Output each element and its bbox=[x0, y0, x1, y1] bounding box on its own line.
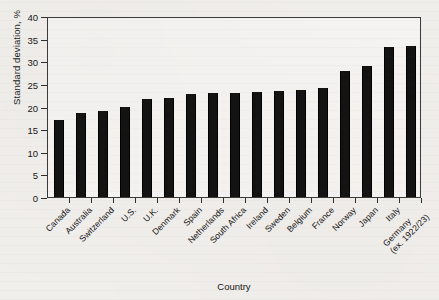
x-axis-category-label: Norway bbox=[330, 205, 358, 233]
y-axis-tick-label: 35 bbox=[0, 34, 38, 45]
bar-chart: Standard deviation, % 0510152025303540 C… bbox=[0, 0, 439, 300]
x-axis-tick bbox=[201, 198, 202, 203]
x-axis-tick bbox=[421, 198, 422, 203]
x-axis-category-label-text: U.S. bbox=[119, 205, 138, 224]
x-axis-category-label: U.S. bbox=[119, 205, 138, 224]
bar bbox=[384, 47, 394, 197]
plot-area bbox=[47, 17, 421, 198]
x-axis-tick bbox=[399, 198, 400, 203]
x-axis-category-label-text: Japan bbox=[356, 205, 380, 229]
x-axis-tick bbox=[135, 198, 136, 203]
bar bbox=[120, 107, 130, 198]
y-axis-tick-label: 30 bbox=[0, 57, 38, 68]
x-axis-tick bbox=[91, 198, 92, 203]
x-axis-tick bbox=[333, 198, 334, 203]
bars-layer bbox=[48, 18, 420, 197]
y-axis-tick-label: 10 bbox=[0, 147, 38, 158]
y-axis-tick-label: 0 bbox=[0, 193, 38, 204]
bar bbox=[362, 66, 372, 197]
bar bbox=[76, 113, 86, 197]
x-axis-tick bbox=[69, 198, 70, 203]
x-axis-category-label: Italy bbox=[384, 205, 402, 223]
x-axis-tick bbox=[179, 198, 180, 203]
x-axis-title: Country bbox=[47, 281, 421, 292]
x-axis-category-label-text: Italy bbox=[384, 205, 402, 223]
x-axis-category-label-text: Norway bbox=[330, 205, 358, 233]
bar bbox=[406, 46, 416, 197]
y-axis-tick-label: 20 bbox=[0, 102, 38, 113]
bar bbox=[98, 111, 108, 197]
x-axis-tick bbox=[113, 198, 114, 203]
x-axis-tick bbox=[377, 198, 378, 203]
x-axis-tick bbox=[355, 198, 356, 203]
x-axis-tick bbox=[267, 198, 268, 203]
y-axis-tick-label: 5 bbox=[0, 170, 38, 181]
bar bbox=[252, 92, 262, 197]
bar bbox=[54, 120, 64, 197]
y-axis-tick bbox=[41, 198, 47, 199]
bar bbox=[208, 93, 218, 197]
bar bbox=[186, 94, 196, 197]
bar bbox=[340, 71, 350, 197]
bar bbox=[142, 99, 152, 197]
y-axis-tick-label: 15 bbox=[0, 125, 38, 136]
x-axis-tick bbox=[289, 198, 290, 203]
x-axis-tick bbox=[311, 198, 312, 203]
bar bbox=[164, 98, 174, 197]
bar bbox=[296, 90, 306, 197]
x-axis-category-label: Japan bbox=[356, 205, 380, 229]
y-axis-tick-label: 40 bbox=[0, 12, 38, 23]
y-axis-tick-label: 25 bbox=[0, 79, 38, 90]
bar bbox=[230, 93, 240, 197]
x-axis-tick bbox=[157, 198, 158, 203]
x-axis-tick bbox=[245, 198, 246, 203]
bar bbox=[318, 88, 328, 198]
x-axis-tick bbox=[223, 198, 224, 203]
bar bbox=[274, 91, 284, 197]
